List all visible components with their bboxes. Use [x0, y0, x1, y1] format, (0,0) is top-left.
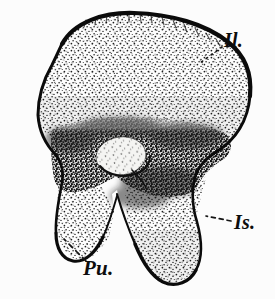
label-ilium: Il. — [224, 30, 243, 50]
figure-container: Il. Is. Pu. — [0, 0, 275, 299]
label-pubis: Pu. — [83, 258, 113, 279]
label-ischium: Is. — [234, 212, 255, 232]
